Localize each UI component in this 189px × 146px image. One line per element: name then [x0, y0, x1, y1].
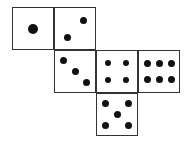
pip-dot: [64, 34, 71, 41]
die-face-1: [12, 7, 54, 50]
pip-dot: [105, 77, 111, 83]
pip-dot: [144, 60, 151, 67]
pip-dot: [125, 100, 132, 107]
pip-dot: [123, 60, 129, 66]
pip-dot: [105, 60, 111, 66]
pip-dot: [28, 24, 38, 34]
pip-dot: [168, 76, 175, 83]
pip-dot: [83, 79, 90, 86]
pip-dot: [114, 111, 121, 118]
pip-dot: [102, 100, 109, 107]
pip-dot: [156, 60, 163, 67]
die-face-2: [54, 7, 96, 50]
die-face-3: [54, 50, 96, 93]
pip-dot: [102, 122, 109, 129]
die-face-4: [96, 50, 138, 93]
pip-dot: [125, 122, 132, 129]
pip-dot: [168, 60, 175, 67]
pip-dot: [72, 68, 79, 75]
pip-dot: [80, 17, 87, 24]
pip-dot: [144, 76, 151, 83]
pip-dot: [156, 76, 163, 83]
pip-dot: [60, 57, 67, 64]
die-face-5: [96, 93, 138, 136]
die-face-6: [138, 50, 180, 93]
pip-dot: [123, 77, 129, 83]
